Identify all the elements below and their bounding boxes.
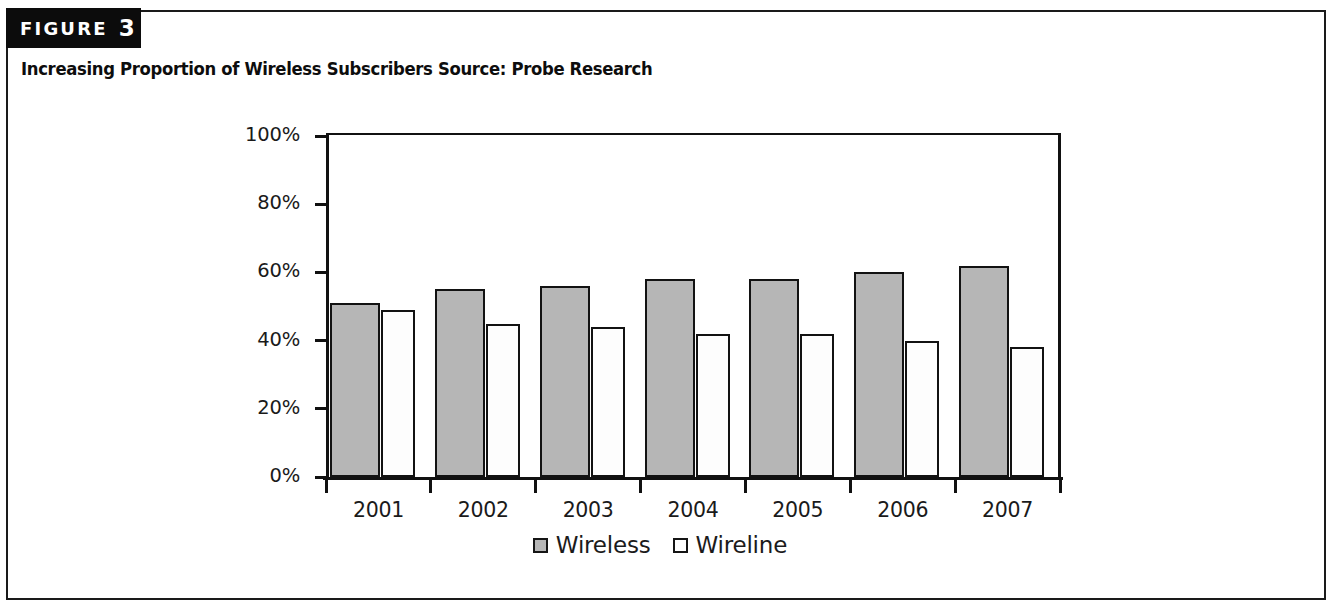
y-axis-tick: [315, 271, 328, 274]
y-axis-tick-label: 20%: [180, 396, 300, 419]
x-axis-tick: [954, 480, 957, 493]
x-axis-tick-label: 2002: [431, 498, 536, 522]
figure-screenshot: FIGURE 3 Increasing Proportion of Wirele…: [0, 0, 1331, 615]
y-axis-tick: [315, 135, 328, 138]
bar-wireline-2004: [696, 334, 730, 477]
wireline-swatch-icon: [673, 538, 688, 553]
x-axis-tick-label: 2001: [326, 498, 431, 522]
bar-wireline-2002: [486, 324, 520, 477]
x-axis-tick: [1059, 480, 1062, 493]
x-axis-tick-label: 2003: [536, 498, 641, 522]
x-axis-tick: [325, 480, 328, 493]
wireless-swatch-icon: [533, 538, 548, 553]
y-axis-tick-label: 40%: [180, 328, 300, 351]
y-axis-tick-label: 80%: [180, 191, 300, 214]
bar-wireless-2005: [749, 279, 799, 477]
bar-wireless-2006: [854, 272, 904, 477]
plot-top-border: [326, 133, 1061, 135]
x-axis-tick: [534, 480, 537, 493]
y-axis-line: [326, 133, 329, 480]
x-axis-tick-label: 2005: [745, 498, 850, 522]
x-axis-line: [323, 477, 1063, 480]
x-axis-tick: [849, 480, 852, 493]
y-axis-tick-label: 0%: [180, 464, 300, 487]
bar-wireless-2001: [330, 303, 380, 477]
y-axis-tick-label: 100%: [180, 123, 300, 146]
x-axis-tick: [639, 480, 642, 493]
bar-wireline-2005: [800, 334, 834, 477]
figure-number-badge: FIGURE 3: [6, 8, 141, 48]
x-axis-tick-label: 2004: [641, 498, 746, 522]
plot-area: 2001200220032004200520062007: [326, 136, 1060, 477]
x-axis-tick-label: 2006: [850, 498, 955, 522]
y-axis-tick: [315, 476, 328, 479]
figure-badge-word: FIGURE: [20, 18, 108, 39]
chart-legend: WirelessWireline: [0, 532, 1320, 558]
bar-wireless-2003: [540, 286, 590, 477]
bar-wireless-2004: [645, 279, 695, 477]
figure-badge-number: 3: [119, 17, 135, 40]
bar-wireline-2001: [381, 310, 415, 477]
x-axis-tick: [429, 480, 432, 493]
legend-label: Wireline: [696, 532, 788, 558]
x-axis-tick: [744, 480, 747, 493]
bar-wireless-2002: [435, 289, 485, 477]
figure-caption: Increasing Proportion of Wireless Subscr…: [21, 59, 652, 79]
bar-wireline-2003: [591, 327, 625, 477]
x-axis-tick-label: 2007: [955, 498, 1060, 522]
y-axis-tick: [315, 203, 328, 206]
bar-wireline-2007: [1010, 347, 1044, 477]
bar-wireline-2006: [905, 341, 939, 477]
y-axis-tick-label: 60%: [180, 259, 300, 282]
plot-right-border: [1058, 133, 1061, 480]
chart-area: 0%20%40%60%80%100% 200120022003200420052…: [0, 120, 1320, 590]
legend-item-wireline[interactable]: Wireline: [673, 532, 788, 558]
bar-wireless-2007: [959, 266, 1009, 477]
legend-item-wireless[interactable]: Wireless: [533, 532, 651, 558]
y-axis-tick: [315, 407, 328, 410]
legend-label: Wireless: [556, 532, 651, 558]
y-axis-tick: [315, 339, 328, 342]
